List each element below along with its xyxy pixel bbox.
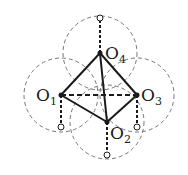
point-o3 (135, 93, 140, 98)
anchor-ring-icon (134, 124, 140, 130)
center-points (59, 51, 140, 125)
label-o3: O3 (141, 85, 162, 108)
edge-o2-o3 (107, 95, 137, 122)
anchor-ring-icon (58, 124, 64, 130)
point-o1 (59, 93, 64, 98)
edge-o1-o2 (61, 95, 107, 122)
anchor-ring-icon (104, 152, 110, 158)
anchor-ring-icon (97, 15, 103, 21)
tetrahedron-spheres-diagram: O1O2O3O4 (0, 0, 188, 175)
point-o4 (98, 51, 103, 56)
edge-o1-o4 (61, 53, 100, 95)
label-o2: O2 (110, 123, 131, 146)
label-o1: O1 (36, 85, 57, 108)
point-o2 (105, 120, 110, 125)
label-o4: O4 (105, 43, 126, 66)
